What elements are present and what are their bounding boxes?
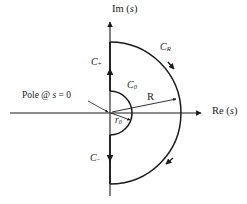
label-radius-r: R: [147, 92, 154, 103]
axis-label-real: Re (s): [212, 106, 237, 117]
label-c-minus: C−: [90, 153, 100, 164]
label-radius-r-zero-subscript: 0: [119, 118, 122, 125]
pole-annotation-label: Pole @ s = 0: [22, 91, 71, 101]
axis-label-imaginary: Im (s): [112, 4, 137, 15]
nyquist-contour-figure: Im (s) Re (s) Pole @ s = 0 C+ C− C0 CR R…: [0, 0, 247, 204]
label-c-minus-subscript: −: [97, 156, 101, 163]
pole-annotation-tail: = 0: [56, 90, 71, 100]
radius-r-leader: [112, 99, 176, 112]
contour-drawing: [0, 0, 247, 204]
label-c-zero: C0: [127, 80, 137, 91]
label-c-r-subscript: R: [167, 45, 171, 52]
pole-annotation-text: Pole @: [22, 90, 52, 100]
label-c-r: CR: [160, 42, 171, 53]
label-radius-r-zero: r0: [115, 116, 122, 126]
label-c-r-letter: C: [160, 41, 167, 52]
label-c-plus: C+: [91, 57, 101, 68]
label-c-plus-subscript: +: [98, 60, 102, 67]
arc-c-r-arrow-lower: [166, 158, 173, 164]
label-c-minus-letter: C: [90, 152, 97, 163]
arc-c-r-arrow-upper: [168, 62, 174, 69]
label-c-plus-letter: C: [91, 56, 98, 67]
axis-label-real-prefix: Re: [212, 105, 224, 116]
pole-leader-line: [88, 101, 108, 112]
label-c-zero-subscript: 0: [134, 83, 137, 90]
label-c-zero-letter: C: [127, 79, 134, 90]
label-radius-r-text: R: [147, 91, 154, 102]
axis-label-imaginary-prefix: Im: [112, 3, 124, 14]
